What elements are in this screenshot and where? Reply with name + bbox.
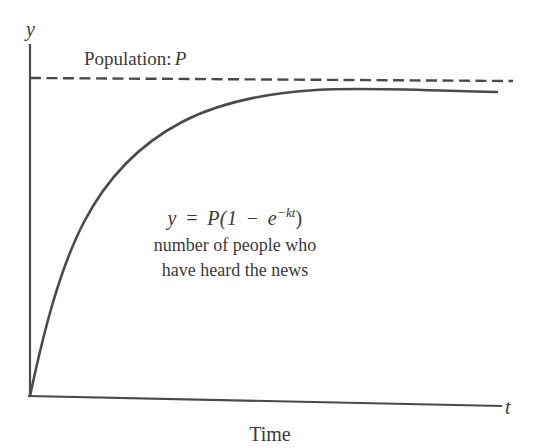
equation-minus: −: [243, 207, 263, 229]
caption-line-2: have heard the news: [0, 260, 470, 281]
curve-annotation: y = P(1 − e−kt) number of people who hav…: [0, 205, 470, 281]
equation-base: e: [268, 207, 277, 229]
equation: y = P(1 − e−kt): [0, 205, 470, 230]
equation-rhs-suffix: ): [296, 207, 303, 229]
equation-rhs-prefix: P(1: [207, 207, 237, 229]
asymptote-label-symbol: P: [172, 48, 187, 69]
asymptote-line: [30, 78, 513, 81]
asymptote-label: Population:P: [84, 48, 186, 70]
equation-lhs: y: [167, 207, 176, 229]
y-axis-label: y: [26, 18, 35, 41]
t-axis-label: t: [505, 396, 511, 419]
x-axis-line: [29, 396, 501, 406]
equation-exponent: −kt: [277, 205, 295, 220]
caption-line-1: number of people who: [0, 235, 470, 256]
exponential-growth-figure: y t Time Population:P y = P(1 − e−kt) nu…: [0, 0, 540, 448]
asymptote-label-text: Population:: [84, 48, 172, 69]
equation-equals: =: [182, 207, 202, 229]
x-axis-title: Time: [0, 423, 540, 446]
